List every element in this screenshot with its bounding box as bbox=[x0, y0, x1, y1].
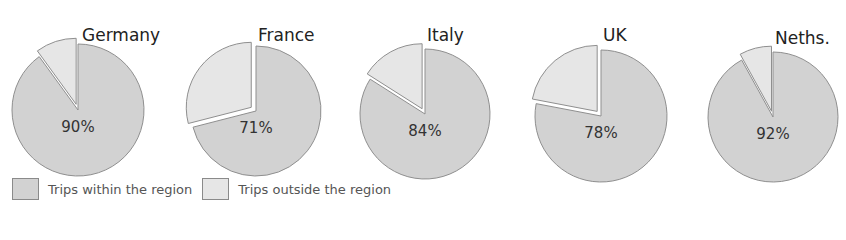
pie-title: Germany bbox=[82, 25, 160, 45]
pie-title: Neths. bbox=[775, 28, 830, 48]
pie-title: UK bbox=[603, 25, 627, 45]
pie-percent-label: 90% bbox=[61, 118, 94, 136]
pie-percent-label: 71% bbox=[239, 119, 272, 137]
slice-outside bbox=[532, 45, 597, 111]
pie-france: France71% bbox=[186, 25, 321, 176]
legend-swatch-outside bbox=[202, 178, 229, 200]
pie-title: France bbox=[258, 25, 315, 45]
legend-swatch-within bbox=[12, 178, 39, 200]
pie-percent-label: 78% bbox=[584, 124, 617, 142]
pie-title: Italy bbox=[427, 25, 464, 45]
legend-item-outside: Trips outside the region bbox=[202, 178, 391, 200]
pie-italy: Italy84% bbox=[360, 25, 490, 179]
legend: Trips within the region Trips outside th… bbox=[12, 178, 401, 200]
legend-item-within: Trips within the region bbox=[12, 178, 192, 200]
slice-outside bbox=[186, 42, 251, 123]
slice-within bbox=[12, 44, 144, 176]
pie-uk: UK78% bbox=[532, 25, 667, 182]
pie-germany: Germany90% bbox=[12, 25, 160, 176]
pie-percent-label: 84% bbox=[408, 122, 441, 140]
pie-neths: Neths.92% bbox=[708, 28, 838, 182]
legend-label-within: Trips within the region bbox=[48, 182, 192, 197]
legend-label-outside: Trips outside the region bbox=[238, 182, 391, 197]
slice-within bbox=[708, 52, 838, 182]
pie-percent-label: 92% bbox=[756, 125, 789, 143]
